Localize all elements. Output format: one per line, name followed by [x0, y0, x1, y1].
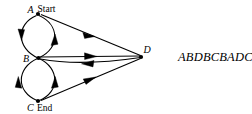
- node-annotation-start: Start: [38, 4, 56, 14]
- edge-b-to-c-left: [21, 59, 37, 101]
- edge-group-a-d: [41, 15, 141, 56]
- edge-a-to-b: [39, 16, 55, 58]
- arrowhead-c-to-d: [83, 77, 96, 84]
- arrowhead-b-to-c-left: [15, 77, 22, 89]
- node-annotation-end: End: [37, 103, 53, 113]
- node-dot-b: [36, 56, 40, 60]
- node-label-c: C: [27, 102, 34, 113]
- arrowhead-b-to-d: [85, 53, 98, 60]
- node-dot-d: [139, 55, 143, 59]
- arrowhead-d-to-b: [82, 60, 95, 67]
- edge-group-b-c: [15, 59, 58, 101]
- edge-group-d-b: [41, 58, 141, 67]
- arrowhead-b-to-a: [18, 29, 25, 41]
- edge-b-to-c-right: [39, 59, 55, 101]
- edge-group-b-d: [41, 53, 141, 60]
- arrowhead-b-to-c-right: [51, 77, 58, 89]
- sequence-label: ABDBCBADC: [178, 50, 252, 65]
- arrowhead-a-to-b: [51, 34, 58, 46]
- diagram-canvas: A Start B C End D ABDBCBADC: [0, 0, 252, 114]
- node-label-d: D: [143, 44, 152, 55]
- arrowhead-a-to-d: [83, 32, 95, 38]
- node-label-b: B: [23, 53, 29, 64]
- node-label-a: A: [27, 4, 35, 15]
